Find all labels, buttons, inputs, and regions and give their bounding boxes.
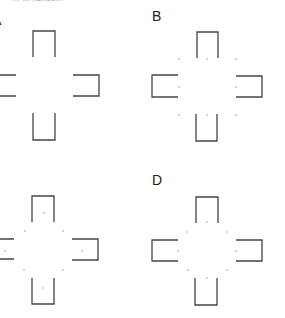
dot [62,230,64,232]
bracket-right [236,76,262,97]
dot [206,58,208,60]
bracket-bottom [32,278,54,304]
panel-c [0,196,98,304]
dot [178,86,180,88]
bracket-right [236,240,262,261]
dot [42,287,44,289]
bracket-bottom [195,278,217,305]
dot [178,58,180,60]
bracket-bottom [33,113,55,140]
bracket-bottom [196,114,217,141]
bracket-right [73,75,99,96]
bracket-left [0,75,16,96]
dot [226,269,228,271]
bracket-top [196,197,218,223]
dot [226,231,228,233]
bracket-left [152,240,178,261]
panel-a [0,31,99,140]
dot [235,114,237,116]
dot [186,231,188,233]
bracket-top [197,32,218,58]
dot [23,269,25,271]
dot [206,277,208,279]
dot [62,269,64,271]
dot [206,221,208,223]
dot [43,212,45,214]
dot [81,250,83,252]
dot [178,114,180,116]
panel-b [152,32,262,141]
dot [206,114,208,116]
bracket-left [152,75,178,97]
figure-canvas [0,0,285,318]
panel-d [152,197,262,305]
dot [177,250,179,252]
dot [235,86,237,88]
dot [4,250,6,252]
bracket-top [32,196,54,222]
bracket-left [0,239,14,259]
dot [24,230,26,232]
dot [235,250,237,252]
bracket-right [72,239,98,260]
dot [235,58,237,60]
dot [187,269,189,271]
bracket-top [33,31,55,57]
